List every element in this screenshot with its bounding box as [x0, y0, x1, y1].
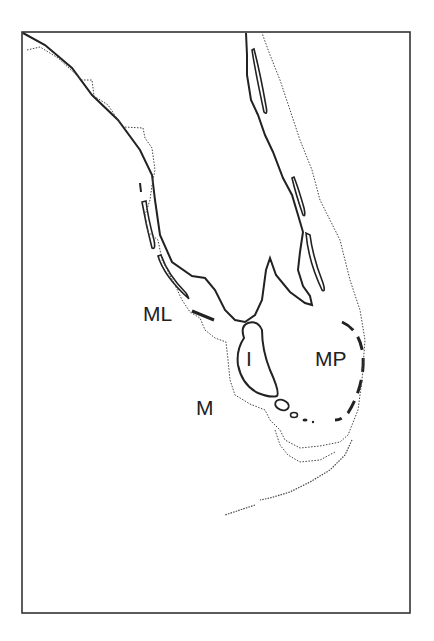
ridge-dash — [192, 311, 214, 320]
i-boundary — [238, 322, 278, 396]
label-ml: ML — [143, 303, 172, 324]
ridge-lens — [142, 201, 155, 248]
key-ellipse — [291, 413, 298, 418]
map-border — [22, 32, 410, 613]
keys-coastline — [225, 440, 352, 515]
label-m: M — [196, 397, 214, 418]
mp-arc — [335, 322, 363, 420]
florida-bay-coast — [275, 430, 335, 462]
map-drawing — [0, 0, 434, 641]
key-dot — [312, 421, 314, 423]
label-mp: MP — [315, 348, 347, 369]
map: ML I MP M — [0, 0, 434, 641]
key-dot — [303, 419, 308, 422]
ridge-dash — [140, 183, 141, 192]
ridge-lens — [252, 49, 267, 113]
coastline — [27, 33, 365, 448]
ridge-lens — [306, 233, 324, 291]
ridge-lens — [292, 177, 305, 216]
west-ridge-line — [23, 33, 312, 322]
label-i: I — [246, 348, 252, 369]
ridge-lens — [158, 255, 189, 298]
key-ellipse — [274, 398, 291, 412]
